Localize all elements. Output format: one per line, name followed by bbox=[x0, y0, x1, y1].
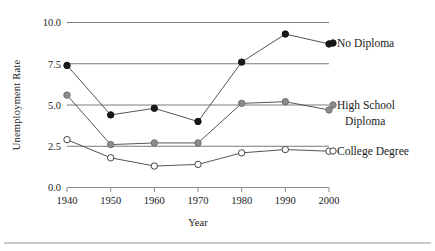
legend: No Diploma High School Diploma College D… bbox=[337, 37, 409, 158]
data-point-no-diploma-1960 bbox=[151, 105, 157, 111]
legend-label-high-school-diploma-line2: Diploma bbox=[345, 115, 385, 128]
data-point-college-degree-1950 bbox=[107, 155, 113, 161]
data-point-no-diploma-1940 bbox=[64, 62, 70, 68]
data-point-high-school-diploma-1940 bbox=[64, 92, 70, 98]
data-point-no-diploma-1990 bbox=[282, 31, 288, 37]
legend-connectors bbox=[329, 43, 333, 151]
x-tick-label-1960: 1960 bbox=[144, 195, 165, 206]
x-tick-label-1950: 1950 bbox=[100, 195, 121, 206]
data-point-no-diploma-1980 bbox=[238, 59, 244, 65]
data-point-college-degree-1970 bbox=[195, 161, 201, 167]
series-line-no-diploma bbox=[67, 34, 329, 121]
data-point-no-diploma-1950 bbox=[107, 112, 113, 118]
y-tick-label-7-5: 7.5 bbox=[48, 59, 61, 70]
data-point-college-degree-1990 bbox=[282, 146, 288, 152]
data-point-high-school-diploma-1960 bbox=[151, 140, 157, 146]
data-point-high-school-diploma-1950 bbox=[107, 141, 113, 147]
y-tick-label-2-5: 2.5 bbox=[48, 141, 61, 152]
y-tick-label-10: 10.0 bbox=[43, 17, 61, 28]
data-point-no-diploma-legend bbox=[330, 40, 336, 46]
legend-label-college-degree: College Degree bbox=[337, 145, 409, 158]
chart-canvas: 10.0 7.5 5.0 2.5 0.0 1940 1950 1960 1970… bbox=[0, 0, 435, 251]
data-point-college-degree-1940 bbox=[64, 136, 70, 142]
x-axis-title: Year bbox=[188, 217, 208, 228]
x-tick-label-1970: 1970 bbox=[188, 195, 209, 206]
series-markers bbox=[64, 31, 336, 169]
data-point-high-school-diploma-1970 bbox=[195, 140, 201, 146]
data-point-college-degree-legend bbox=[330, 148, 336, 154]
unemployment-rate-line-chart: 10.0 7.5 5.0 2.5 0.0 1940 1950 1960 1970… bbox=[0, 0, 435, 251]
data-point-high-school-diploma-1980 bbox=[238, 100, 244, 106]
y-tick-label-5: 5.0 bbox=[48, 100, 61, 111]
data-point-high-school-diploma-1990 bbox=[282, 99, 288, 105]
x-tick-label-1990: 1990 bbox=[275, 195, 296, 206]
legend-label-high-school-diploma-line1: High School bbox=[337, 99, 395, 112]
y-tick-labels: 10.0 7.5 5.0 2.5 0.0 bbox=[43, 17, 61, 193]
x-axis bbox=[67, 188, 329, 193]
gridlines bbox=[67, 23, 329, 147]
x-tick-label-1980: 1980 bbox=[231, 195, 252, 206]
x-tick-label-2000: 2000 bbox=[319, 195, 340, 206]
y-tick-label-0: 0.0 bbox=[48, 182, 61, 193]
x-tick-label-1940: 1940 bbox=[57, 195, 78, 206]
x-tick-labels: 1940 1950 1960 1970 1980 1990 2000 bbox=[57, 195, 340, 206]
data-point-high-school-diploma-legend bbox=[330, 102, 336, 108]
legend-label-no-diploma: No Diploma bbox=[337, 37, 394, 50]
data-point-no-diploma-1970 bbox=[195, 118, 201, 124]
y-axis-title: Unemployment Rate bbox=[11, 60, 22, 151]
data-point-college-degree-1980 bbox=[238, 150, 244, 156]
data-point-college-degree-1960 bbox=[151, 163, 157, 169]
